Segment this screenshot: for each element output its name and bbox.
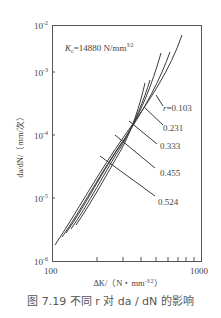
curve-r-0231: [62, 52, 170, 237]
svg-text:0.231: 0.231: [163, 123, 183, 133]
x-axis-ticks: [97, 257, 194, 261]
curve-r-0524: [76, 83, 145, 225]
svg-text:10-4: 10-4: [34, 130, 48, 141]
x-tick-100: 100: [44, 266, 58, 276]
svg-text:0.524: 0.524: [158, 197, 179, 207]
kc-annotation: Kc=14880 N/mm3/2: [64, 42, 134, 54]
curve-r-0333: [66, 53, 161, 233]
y-tick-labels: 10-2 10-3 10-4 10-5 10-6: [34, 20, 48, 267]
svg-text:r=0.103: r=0.103: [163, 103, 192, 113]
svg-text:10-5: 10-5: [34, 193, 48, 204]
curves: [55, 35, 182, 245]
svg-text:0.333: 0.333: [160, 141, 181, 151]
figure-caption: 图 7.19 不同 r 对 da / dN 的影响: [0, 292, 221, 308]
svg-text:10-3: 10-3: [34, 67, 48, 78]
svg-text:10-2: 10-2: [34, 20, 48, 31]
crack-growth-chart: 10-2 10-3 10-4 10-5 10-6 100 1000 da/dN/…: [0, 0, 221, 318]
r-labels: r=0.103 0.231 0.333 0.455 0.524: [158, 103, 192, 207]
curve-r-0103: [55, 35, 182, 245]
x-axis-label: ΔK/（N・mm-3/2）: [93, 278, 162, 288]
x-tick-1000: 1000: [190, 266, 209, 276]
svg-text:0.455: 0.455: [160, 168, 181, 178]
leader-lines: [100, 95, 163, 196]
y-axis-label: da/dN/（mm/次）: [15, 112, 25, 178]
